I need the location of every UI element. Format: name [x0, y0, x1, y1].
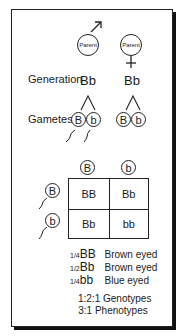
male-parent-label: Parent	[79, 42, 97, 48]
punnett-cell: Bb	[109, 179, 149, 209]
genotype-ratio: 1:2:1 Genotypes	[78, 293, 148, 304]
top-allele-b: b	[121, 160, 136, 175]
female-gamete-B: B	[116, 112, 131, 127]
female-parent-circle: Parent	[120, 34, 142, 56]
top-allele-B: B	[80, 160, 95, 175]
punnett-cell: BB	[69, 179, 109, 209]
side-allele-B: B	[45, 183, 60, 198]
result-row: 1/2Bb Brown eyed	[70, 260, 157, 274]
result-row: 1/4bb Blue eyed	[70, 273, 149, 287]
result-row: 1/4BB Brown eyed	[70, 247, 157, 261]
male-genotype: Bb	[80, 73, 96, 88]
male-parent-circle: Parent	[77, 34, 99, 56]
female-parent-label: Parent	[122, 42, 140, 48]
phenotype-ratio: 3:1 Phenotypes	[78, 305, 148, 316]
gametes-label: Gametes	[28, 113, 73, 125]
side-allele-b: b	[45, 213, 60, 228]
male-gamete-b: b	[86, 112, 101, 127]
generation-label: Generation	[28, 73, 82, 85]
punnett-cell: Bb	[69, 209, 109, 239]
female-gamete-b: b	[131, 112, 146, 127]
female-genotype: Bb	[124, 73, 140, 88]
punnett-cell: bb	[109, 209, 149, 239]
male-gamete-B: B	[71, 112, 86, 127]
punnett-square: BB Bb Bb bb	[68, 178, 149, 239]
